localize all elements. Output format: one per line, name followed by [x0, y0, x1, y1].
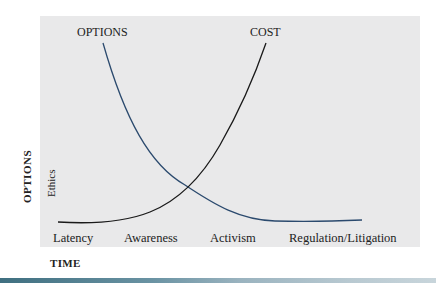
- stage-label-awareness: Awareness: [124, 231, 178, 246]
- bottom-decorative-bar: [0, 278, 436, 283]
- options-curve-label: OPTIONS: [77, 25, 128, 40]
- options-curve: [103, 43, 362, 221]
- stage-label-regulation-litigation: Regulation/Litigation: [289, 231, 397, 246]
- cost-curve-label: COST: [250, 25, 281, 40]
- stage-label-activism: Activism: [210, 231, 256, 246]
- y-axis-sublabel: Ethics: [45, 170, 57, 198]
- x-axis-label: TIME: [50, 257, 81, 269]
- y-axis-label: OPTIONS: [21, 150, 33, 203]
- stage-label-latency: Latency: [53, 231, 93, 246]
- cost-curve: [58, 43, 266, 223]
